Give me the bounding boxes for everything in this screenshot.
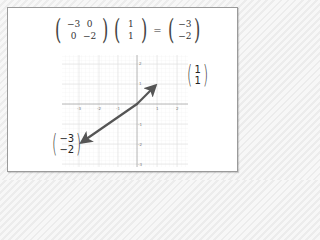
- x-tick-label: -3: [77, 106, 81, 111]
- y-tick-label: -2: [138, 142, 142, 147]
- vector-label-entry: 1: [194, 64, 200, 75]
- coordinate-plot: -3 -2 -1 1 2 2 1 -1 -2 -3: [0, 0, 249, 180]
- y-tick-label: -3: [138, 162, 142, 167]
- vector-label-1-1: ( 1 1 ): [185, 62, 210, 88]
- y-tick-label: -1: [138, 122, 142, 127]
- vector-label-neg3-neg2: ( −3 −2 ): [50, 131, 84, 157]
- vector-label-entry: −2: [59, 144, 74, 155]
- vector-label-entry: 1: [194, 75, 200, 86]
- x-tick-label: -2: [97, 106, 101, 111]
- vector-label-entry: −3: [59, 133, 74, 144]
- x-tick-label: -1: [116, 106, 120, 111]
